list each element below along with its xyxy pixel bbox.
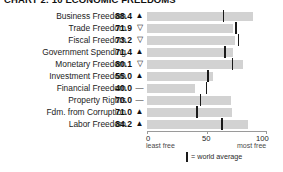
trend-down-icon: ▽: [134, 58, 145, 70]
chart-row: Fdm. from Corruption71.0▲: [0, 106, 283, 118]
world-average-marker: [196, 106, 198, 118]
value-bar: [147, 120, 248, 129]
world-average-marker: [223, 10, 225, 22]
row-plot: [147, 118, 267, 130]
value-bar: [147, 60, 243, 69]
economic-freedoms-chart: CHART 2: 10 ECONOMIC FREEDOMS Business F…: [0, 0, 283, 172]
chart-row: Investment Freedom55.0▲: [0, 70, 283, 82]
value-bar: [147, 24, 233, 33]
trend-flat-icon: —: [134, 82, 145, 94]
chart-title: CHART 2: 10 ECONOMIC FREEDOMS: [4, 0, 176, 3]
row-plot: [147, 22, 267, 34]
value-bar: [147, 96, 231, 105]
row-plot: [147, 82, 267, 94]
trend-up-icon: ▲: [134, 118, 145, 130]
chart-row: Business Freedom88.4▲: [0, 10, 283, 22]
trend-up-icon: ▲: [134, 70, 145, 82]
trend-up-icon: ▲: [134, 106, 145, 118]
world-average-marker: [200, 94, 202, 106]
row-plot: [147, 106, 267, 118]
axis-sublabel-least-free: least free: [146, 142, 175, 149]
chart-row: Monetary Freedom80.1▽: [0, 58, 283, 70]
row-value-label: 55.0: [109, 70, 132, 82]
row-value-label: 71.0: [109, 106, 132, 118]
row-value-label: 80.1: [109, 58, 132, 70]
trend-up-icon: ▲: [134, 46, 145, 58]
trend-down-icon: ▽: [134, 22, 145, 34]
row-plot: [147, 10, 267, 22]
trend-down-icon: ▽: [134, 34, 145, 46]
world-average-marker: [238, 34, 240, 46]
world-average-marker: [224, 46, 226, 58]
chart-rows: Business Freedom88.4▲Trade Freedom71.9▽F…: [0, 10, 283, 130]
row-plot: [147, 58, 267, 70]
axis-sublabel-most-free: most free: [237, 142, 266, 149]
chart-row: Property Rights70.0—: [0, 94, 283, 106]
value-bar: [147, 84, 195, 93]
row-plot: [147, 94, 267, 106]
row-value-label: 70.0: [109, 94, 132, 106]
x-tick-label-50: 50: [202, 134, 210, 143]
row-value-label: 71.4: [109, 46, 132, 58]
value-bar: [147, 48, 233, 57]
chart-row: Trade Freedom71.9▽: [0, 22, 283, 34]
row-value-label: 71.9: [109, 22, 132, 34]
chart-row: Government Spending71.4▲: [0, 46, 283, 58]
row-plot: [147, 34, 267, 46]
value-bar: [147, 72, 213, 81]
world-average-marker: [206, 82, 208, 94]
value-bar: [147, 12, 253, 21]
row-plot: [147, 70, 267, 82]
chart-row: Financial Freedom40.0—: [0, 82, 283, 94]
trend-up-icon: ▲: [134, 10, 145, 22]
world-average-marker: [207, 70, 209, 82]
value-bar: [147, 36, 235, 45]
world-average-marker: [221, 118, 223, 130]
world-average-marker: [232, 58, 234, 70]
row-value-label: 40.0: [109, 82, 132, 94]
row-value-label: 84.2: [109, 118, 132, 130]
value-bar: [147, 108, 232, 117]
row-plot: [147, 46, 267, 58]
world-average-marker: [235, 22, 237, 34]
world-average-marker-icon: [186, 152, 188, 162]
chart-row: Fiscal Freedom73.2▽: [0, 34, 283, 46]
chart-row: Labor Freedom84.2▲: [0, 118, 283, 130]
row-value-label: 73.2: [109, 34, 132, 46]
trend-flat-icon: —: [134, 94, 145, 106]
legend-label: = world average: [191, 152, 242, 162]
row-value-label: 88.4: [109, 10, 132, 22]
